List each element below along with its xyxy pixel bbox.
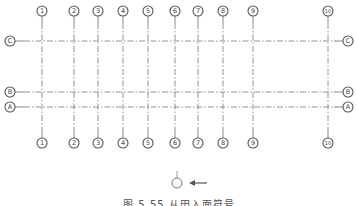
axis-bubble-bottom-5-label: 5 (146, 139, 150, 147)
axis-bubble-left-B-label: B (8, 88, 12, 96)
axis-bubble-top-2-label: 2 (72, 7, 76, 15)
section-symbol-circle-icon (172, 178, 182, 188)
axis-bubble-bottom-10-label: 10 (325, 140, 331, 146)
axis-bubble-bottom-6-label: 6 (173, 139, 177, 147)
axis-bubble-bottom-2-label: 2 (72, 139, 76, 147)
axis-bubble-bottom-8-label: 8 (221, 139, 225, 147)
figure-caption: 图 5.55 从田入面符号 (0, 196, 358, 206)
axis-bubble-bottom-1-label: 1 (40, 139, 44, 147)
axis-bubble-left-C-label: C (8, 37, 13, 45)
axis-bubble-top-5-label: 5 (146, 7, 150, 15)
axis-bubble-bottom-9-label: 9 (251, 139, 255, 147)
axis-bubble-left-A-label: A (8, 103, 13, 111)
axis-bubble-top-4-label: 4 (121, 7, 125, 15)
axis-bubble-bottom-4-label: 4 (121, 139, 125, 147)
axis-grid-diagram: 1122334455667788991010CCBBAA (0, 0, 358, 206)
axis-bubble-top-6-label: 6 (173, 7, 177, 15)
arrow-left-icon (189, 180, 195, 186)
axis-bubble-right-B-label: B (346, 88, 350, 96)
axis-bubble-top-9-label: 9 (251, 7, 255, 15)
axis-bubble-right-A-label: A (346, 103, 351, 111)
axis-bubble-bottom-3-label: 3 (96, 139, 100, 147)
axis-bubble-right-C-label: C (346, 37, 351, 45)
axis-bubble-bottom-7-label: 7 (196, 139, 200, 147)
axis-bubble-top-8-label: 8 (221, 7, 225, 15)
axis-bubble-top-1-label: 1 (40, 7, 44, 15)
axis-bubble-top-3-label: 3 (96, 7, 100, 15)
axis-bubble-top-7-label: 7 (196, 7, 200, 15)
axis-bubble-top-10-label: 10 (325, 8, 331, 14)
